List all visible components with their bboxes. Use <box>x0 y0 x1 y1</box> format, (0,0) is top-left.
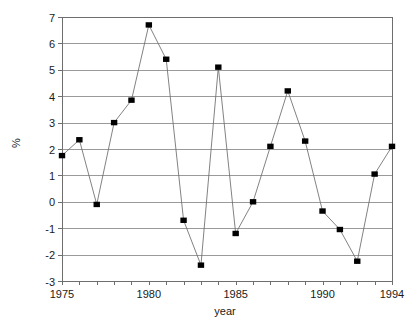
data-point-marker <box>389 144 395 149</box>
data-point-marker <box>76 137 82 142</box>
y-tick-label: 7 <box>49 12 55 24</box>
data-point-marker <box>94 202 100 207</box>
data-point-marker <box>267 144 273 149</box>
y-tick-label: 5 <box>49 64 55 76</box>
data-point-marker <box>128 97 134 102</box>
data-point-marker <box>163 57 169 62</box>
data-point-marker <box>59 153 65 158</box>
data-point-marker <box>111 120 117 125</box>
y-tick-labels-group: 76543210-1-2-3 <box>45 12 55 288</box>
data-point-marker <box>302 138 308 143</box>
y-tick-label: 4 <box>49 91 55 103</box>
data-point-marker <box>215 64 221 69</box>
y-tick-label: -2 <box>45 249 55 261</box>
data-point-marker <box>198 262 204 267</box>
data-point-marker <box>285 88 291 93</box>
y-tick-label: 2 <box>49 144 55 156</box>
y-tick-label: 3 <box>49 117 55 129</box>
y-tick-label: -3 <box>45 276 55 288</box>
y-tick-label: -1 <box>45 223 55 235</box>
y-tick-label: 0 <box>49 196 55 208</box>
data-point-marker <box>146 22 152 27</box>
data-point-marker <box>319 208 325 213</box>
x-tick-label: 1990 <box>310 288 334 300</box>
data-point-marker <box>371 171 377 176</box>
x-tick-label: 1994 <box>380 288 404 300</box>
x-tick-label: 1980 <box>137 288 161 300</box>
data-point-marker <box>232 231 238 236</box>
data-point-marker <box>180 218 186 223</box>
line-chart: 76543210-1-2-3 19751980198519901994 % ye… <box>0 0 417 330</box>
y-tick-label: 6 <box>49 38 55 50</box>
chart-container: 76543210-1-2-3 19751980198519901994 % ye… <box>0 0 417 330</box>
x-tick-labels-group: 19751980198519901994 <box>50 288 404 300</box>
data-point-marker <box>337 227 343 232</box>
y-tick-label: 1 <box>49 170 55 182</box>
y-axis-title: % <box>10 138 22 148</box>
data-point-marker <box>354 259 360 264</box>
x-axis-title: year <box>214 305 236 317</box>
y-tick-marks-group <box>58 18 62 282</box>
data-point-marker <box>250 199 256 204</box>
x-tick-label: 1985 <box>223 288 247 300</box>
x-tick-label: 1975 <box>50 288 74 300</box>
